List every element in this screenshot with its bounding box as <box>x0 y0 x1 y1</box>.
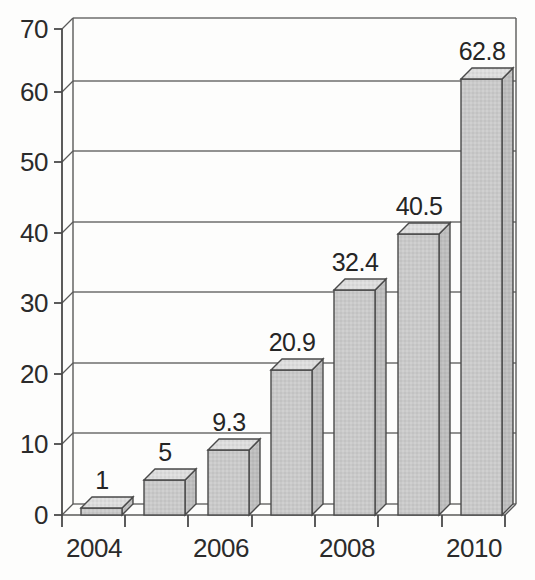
y-tick-label-70: 70 <box>0 14 48 45</box>
y-tick-label-30: 30 <box>0 288 48 319</box>
bar-value-label-2005: 5 <box>125 438 205 467</box>
bar-value-label-2007: 20.9 <box>252 328 332 357</box>
axis-depth-connectors <box>62 18 73 515</box>
y-tick-label-60: 60 <box>0 77 48 108</box>
bar-value-label-2009: 40.5 <box>379 192 459 221</box>
y-tick-label-10: 10 <box>0 429 48 460</box>
bar-value-label-2010: 62.8 <box>442 37 522 66</box>
plot-area: 0 10 20 30 40 50 60 70 2004 2006 2008 20… <box>0 0 535 580</box>
bar-chart: 0 10 20 30 40 50 60 70 2004 2006 2008 20… <box>0 0 535 580</box>
y-tick-label-20: 20 <box>0 359 48 390</box>
bar-2009 <box>398 223 450 515</box>
bar-2005 <box>144 469 196 515</box>
x-tick-label-2008: 2008 <box>302 533 392 564</box>
bar-value-label-2004: 1 <box>62 466 142 495</box>
y-tick-label-40: 40 <box>0 218 48 249</box>
x-tick-label-2004: 2004 <box>49 533 139 564</box>
bar-value-label-2006: 9.3 <box>189 408 269 437</box>
x-tick-label-2010: 2010 <box>429 533 519 564</box>
bar-2008 <box>334 279 386 515</box>
y-tick-label-0: 0 <box>0 500 48 531</box>
x-axis-ticks <box>62 515 505 527</box>
bar-2010 <box>461 68 513 515</box>
bar-2007 <box>271 359 323 515</box>
y-axis-ticks <box>54 29 62 515</box>
y-tick-label-50: 50 <box>0 147 48 178</box>
bar-2004 <box>81 497 133 515</box>
bar-2006 <box>208 439 260 515</box>
x-tick-label-2006: 2006 <box>176 533 266 564</box>
bar-value-label-2008: 32.4 <box>315 248 395 277</box>
